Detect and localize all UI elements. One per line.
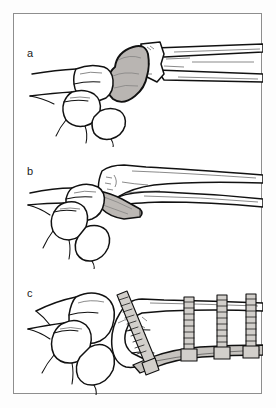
panel-c: c [14,269,263,395]
panel-b: b [14,147,263,269]
figure-illustration: a [0,0,276,408]
panel-b-drawing [14,147,263,269]
carpal-bones [30,65,125,147]
figure-frame: a [13,13,262,394]
radius-shaft [155,44,263,82]
panel-a: a [14,14,263,147]
carpal-bones [28,293,114,395]
panel-c-drawing [14,269,263,395]
carpal-bones [28,184,110,269]
panel-a-drawing [14,14,263,147]
